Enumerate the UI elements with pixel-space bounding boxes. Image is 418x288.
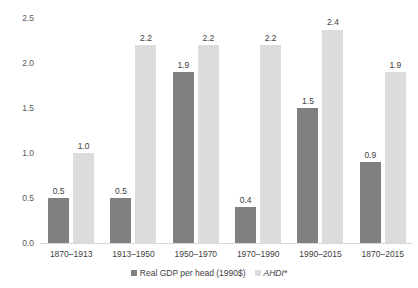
x-axis-category-label: 1990–2015 bbox=[289, 246, 351, 262]
legend-item[interactable]: AHDI* bbox=[255, 269, 288, 278]
bar-group: 0.51.0 bbox=[40, 18, 102, 243]
legend-swatch-icon bbox=[255, 270, 261, 276]
bar-group: 1.92.2 bbox=[165, 18, 227, 243]
bar[interactable] bbox=[297, 108, 318, 243]
bar-column[interactable]: 2.2 bbox=[198, 18, 219, 243]
x-axis-category-labels: 1870–19131913–19501950–19701970–19901990… bbox=[40, 246, 414, 262]
bar-group: 0.42.2 bbox=[227, 18, 289, 243]
chart-legend: Real GDP per head (1990$)AHDI* bbox=[0, 266, 418, 280]
y-axis-tick-label: 2.0 bbox=[0, 59, 34, 68]
bar[interactable] bbox=[260, 45, 281, 243]
y-axis-tick-label: 1.0 bbox=[0, 149, 34, 158]
bar-value-label: 1.9 bbox=[177, 61, 189, 70]
x-axis-baseline bbox=[40, 243, 412, 244]
bar-value-label: 2.4 bbox=[327, 18, 339, 27]
legend-swatch-icon bbox=[131, 270, 137, 276]
x-axis-category-label: 1870–1913 bbox=[40, 246, 102, 262]
x-axis-category-label: 1913–1950 bbox=[102, 246, 164, 262]
bar-column[interactable]: 2.2 bbox=[135, 18, 156, 243]
bar-value-label: 2.2 bbox=[265, 34, 277, 43]
bar[interactable] bbox=[198, 45, 219, 243]
bar-value-label: 0.9 bbox=[364, 151, 376, 160]
bar-group: 0.91.9 bbox=[352, 18, 414, 243]
bar-value-label: 0.5 bbox=[115, 187, 127, 196]
bar-column[interactable]: 2.4 bbox=[322, 18, 343, 243]
bar-value-label: 1.5 bbox=[302, 97, 314, 106]
bar-group: 1.52.4 bbox=[289, 18, 351, 243]
y-axis-tick-label: 0.0 bbox=[0, 239, 34, 248]
bar-chart: 0.00.51.01.52.02.5 0.51.00.52.21.92.20.4… bbox=[0, 0, 418, 288]
bar[interactable] bbox=[48, 198, 69, 243]
bar-column[interactable]: 0.5 bbox=[48, 18, 69, 243]
bar[interactable] bbox=[385, 72, 406, 243]
x-axis-category-label: 1950–1970 bbox=[165, 246, 227, 262]
legend-label: AHDI* bbox=[264, 269, 288, 278]
bar-column[interactable]: 0.5 bbox=[110, 18, 131, 243]
bar[interactable] bbox=[360, 162, 381, 243]
bar-column[interactable]: 0.9 bbox=[360, 18, 381, 243]
bar-column[interactable]: 0.4 bbox=[235, 18, 256, 243]
bar[interactable] bbox=[135, 45, 156, 243]
bar-value-label: 1.9 bbox=[389, 61, 401, 70]
bar-column[interactable]: 1.9 bbox=[173, 18, 194, 243]
y-axis: 0.00.51.01.52.02.5 bbox=[0, 0, 40, 248]
bar-groups: 0.51.00.52.21.92.20.42.21.52.40.91.9 bbox=[40, 18, 414, 243]
bar-value-label: 1.0 bbox=[78, 142, 90, 151]
bar-column[interactable]: 2.2 bbox=[260, 18, 281, 243]
y-axis-tick-label: 2.5 bbox=[0, 14, 34, 23]
bar[interactable] bbox=[235, 207, 256, 243]
bar-group: 0.52.2 bbox=[102, 18, 164, 243]
legend-item[interactable]: Real GDP per head (1990$) bbox=[131, 269, 246, 278]
legend-label: Real GDP per head (1990$) bbox=[140, 269, 246, 278]
bar-value-label: 0.5 bbox=[53, 187, 65, 196]
y-axis-tick-label: 0.5 bbox=[0, 194, 34, 203]
plot-area: 0.51.00.52.21.92.20.42.21.52.40.91.9 bbox=[40, 18, 414, 243]
bar-value-label: 2.2 bbox=[202, 34, 214, 43]
bar[interactable] bbox=[110, 198, 131, 243]
bar[interactable] bbox=[73, 153, 94, 243]
bar[interactable] bbox=[322, 30, 343, 244]
bar-column[interactable]: 1.0 bbox=[73, 18, 94, 243]
y-axis-tick-label: 1.5 bbox=[0, 104, 34, 113]
bar[interactable] bbox=[173, 72, 194, 243]
x-axis-category-label: 1870–2015 bbox=[352, 246, 414, 262]
bar-column[interactable]: 1.9 bbox=[385, 18, 406, 243]
x-axis-category-label: 1970–1990 bbox=[227, 246, 289, 262]
bar-column[interactable]: 1.5 bbox=[297, 18, 318, 243]
bar-value-label: 2.2 bbox=[140, 34, 152, 43]
bar-value-label: 0.4 bbox=[240, 196, 252, 205]
